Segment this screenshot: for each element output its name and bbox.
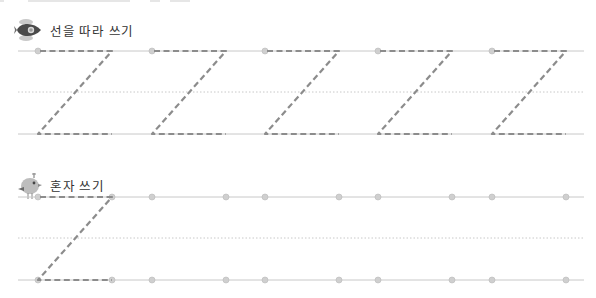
start-dot	[375, 277, 381, 283]
start-dot	[262, 277, 268, 283]
writing-guide	[0, 0, 596, 298]
end-dot	[223, 194, 229, 200]
start-dot	[489, 194, 495, 200]
end-dot	[563, 194, 569, 200]
end-dot	[336, 277, 342, 283]
end-dot	[563, 277, 569, 283]
end-dot	[223, 277, 229, 283]
end-dot	[449, 277, 455, 283]
start-dot	[262, 194, 268, 200]
start-dot	[149, 277, 155, 283]
start-dot	[149, 194, 155, 200]
end-dot	[449, 194, 455, 200]
end-dot	[336, 194, 342, 200]
traced-letter-z	[38, 51, 112, 134]
traced-letter-z	[38, 197, 112, 280]
start-dot	[375, 194, 381, 200]
start-dot	[489, 277, 495, 283]
traced-letter-z	[265, 51, 339, 134]
